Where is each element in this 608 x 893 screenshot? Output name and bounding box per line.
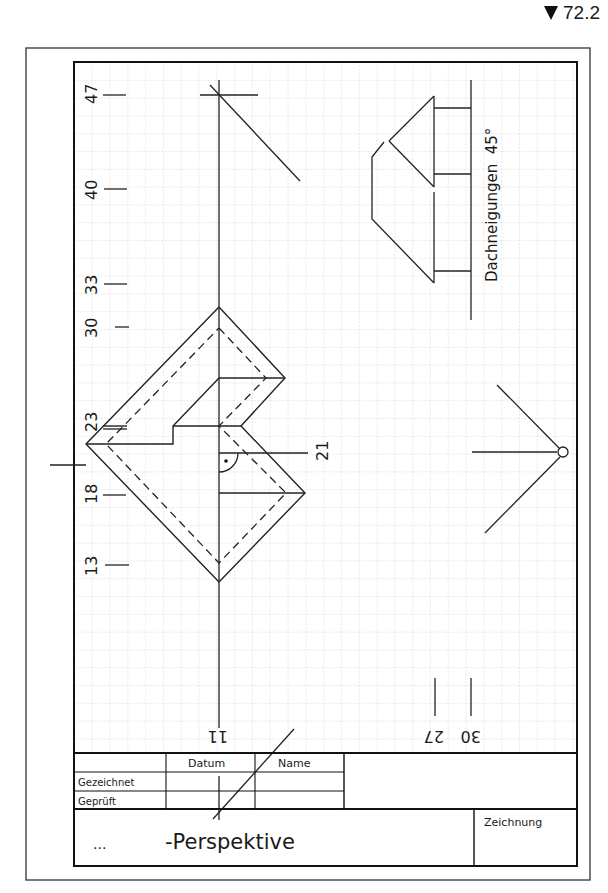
- axis-label: 23: [82, 412, 101, 432]
- col-name: Name: [278, 757, 311, 770]
- drawing-label: Zeichnung: [484, 816, 542, 829]
- row-geprueft: Geprüft: [78, 796, 116, 807]
- station-point-circle-icon: [558, 447, 568, 457]
- title-block: [74, 753, 577, 866]
- axis-label: 18: [82, 484, 101, 504]
- axis-label: 47: [82, 84, 101, 104]
- roof-pitch-label: Dachneigungen 45°: [483, 128, 501, 282]
- axis-label: 27: [424, 727, 444, 746]
- axis-label: 30: [82, 318, 101, 338]
- drawing-sheet: 47 40 33 30 23 18 13 21 Dachneigungen 45…: [0, 0, 608, 893]
- axis-label: 33: [82, 275, 101, 295]
- label-21: 21: [313, 441, 332, 461]
- row-gezeichnet: Gezeichnet: [78, 777, 134, 788]
- title-prefix: ...: [93, 836, 106, 852]
- axis-label: 11: [208, 727, 228, 746]
- col-datum: Datum: [188, 757, 225, 770]
- axis-label: 30: [461, 727, 481, 746]
- drawing-title: -Perspektive: [165, 830, 295, 854]
- axis-label: 40: [82, 180, 101, 200]
- grid-area: [74, 62, 577, 753]
- axis-label: 13: [82, 556, 101, 576]
- right-angle-dot-icon: [224, 459, 228, 463]
